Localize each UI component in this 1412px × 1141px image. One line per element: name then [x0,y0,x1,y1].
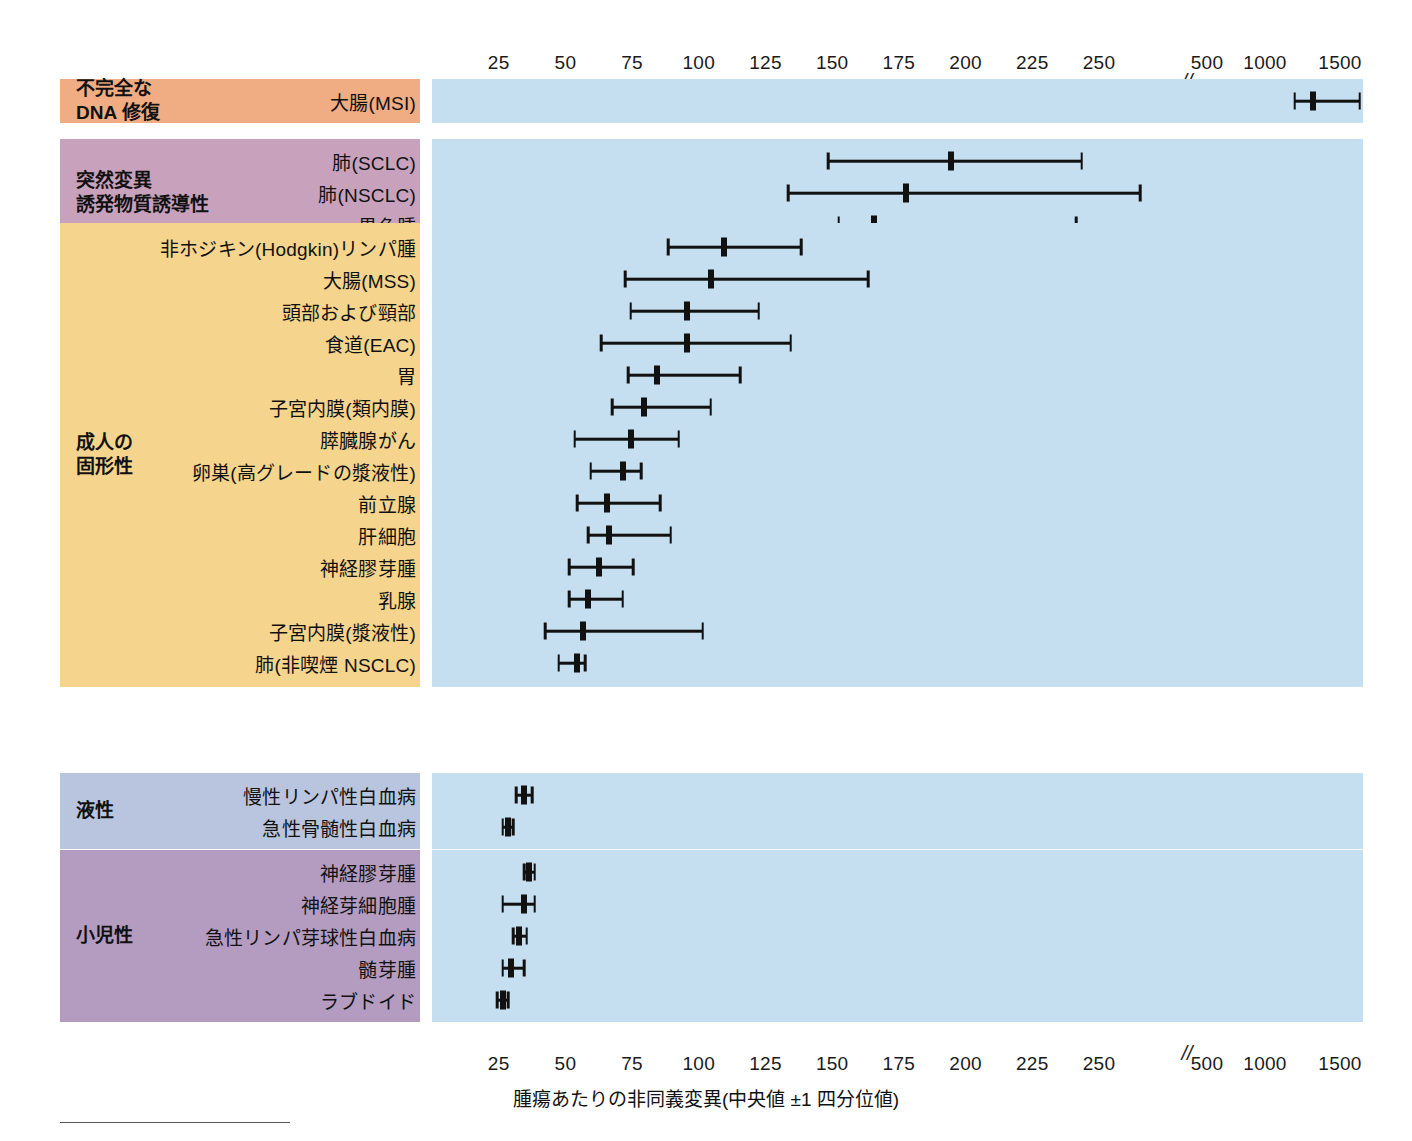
median-marker [641,398,647,417]
row-label: 子宮内膜(類内膜) [269,394,416,421]
row-label: 乳腺 [378,586,416,613]
error-bar-cap-low [501,960,504,977]
table-row: 非ホジキン(Hodgkin)リンパ腫 [60,231,1363,263]
error-bar-line [575,438,679,441]
axis-bottom-tick-150: 150 [816,1053,849,1075]
error-bar-cap-high [533,864,536,881]
row-label: 前立腺 [358,490,416,517]
axis-bottom-tick-100: 100 [682,1053,715,1075]
error-bar-cap-high [1080,153,1083,170]
error-bar-line [628,374,740,377]
median-marker [684,334,690,353]
median-marker [585,590,591,609]
median-marker [684,302,690,321]
error-bar-cap-low [568,591,571,608]
error-bar-cap-low [523,864,526,881]
error-bar-cap-low [544,623,547,640]
table-row: 食道(EAC) [60,327,1363,359]
median-marker [500,991,506,1010]
axis-top-tick-250: 250 [1083,52,1116,74]
error-bar-cap-low [787,185,790,202]
median-marker [903,184,909,203]
error-bar-line [588,534,671,537]
median-marker [574,654,580,673]
error-bar-cap-low [667,239,670,256]
row-label: 髄芽腫 [358,955,416,982]
row-label: 肺(SCLC) [332,148,416,175]
row-label: 急性骨髄性白血病 [262,814,416,841]
error-bar-cap-high [701,623,704,640]
axis-bottom-tick-225: 225 [1016,1053,1049,1075]
error-bar-line [1295,100,1360,103]
table-row: ラブドイド [60,984,1363,1016]
axis-top-tick-500: 500 [1191,52,1224,74]
mutation-burden-chart: 2550751001251501752002252505001000150025… [0,0,1412,1141]
error-bar-cap-high [677,431,680,448]
error-bar-cap-low [827,153,830,170]
axis-top-tick-1000: 1000 [1243,52,1286,74]
error-bar-cap-high [584,655,587,672]
error-bar-cap-low [627,367,630,384]
error-bar-cap-high [1358,93,1361,110]
median-marker [620,462,626,481]
error-bar-line [668,246,801,249]
row-label: 食道(EAC) [325,330,416,357]
table-row: 大腸(MSI) [60,85,1363,117]
table-row: 頭部および頸部 [60,295,1363,327]
error-bar-line [569,598,622,601]
chart-section-4: 小児性神経膠芽腫神経芽細胞腫急性リンパ芽球性白血病髄芽腫ラブドイド [60,850,1363,1022]
median-marker [508,959,514,978]
median-marker [521,786,527,805]
axis-bottom-tick-125: 125 [749,1053,782,1075]
table-row: 子宮内膜(漿液性) [60,615,1363,647]
axis-bottom-tick-200: 200 [949,1053,982,1075]
axis-top-tick-150: 150 [816,52,849,74]
error-bar-cap-low [629,303,632,320]
error-bar-cap-low [496,992,499,1009]
error-bar-cap-high [533,896,536,913]
error-bar-cap-high [1139,185,1142,202]
error-bar-line [612,406,711,409]
row-label: 卵巣(高グレードの漿液性) [192,458,416,485]
error-bar-cap-low [624,271,627,288]
table-row: 肺(NSCLC) [60,177,1363,209]
error-bar-cap-high [669,527,672,544]
table-row: 髄芽腫 [60,952,1363,984]
table-row: 大腸(MSS) [60,263,1363,295]
row-label: 膵臓腺がん [320,426,416,453]
chart-section-2: 成人の 固形性非ホジキン(Hodgkin)リンパ腫大腸(MSS)頭部および頸部食… [60,223,1363,687]
axis-bottom-tick-1000: 1000 [1243,1053,1286,1075]
error-bar-cap-low [501,896,504,913]
error-bar-line [788,192,1140,195]
median-marker [606,526,612,545]
axis-break-mark: // [1181,1042,1192,1065]
median-marker [516,927,522,946]
median-marker [628,430,634,449]
chart-section-0: 不完全な DNA 修復大腸(MSI) [60,79,1363,123]
axis-top-tick-25: 25 [488,52,510,74]
error-bar-cap-low [515,787,518,804]
row-label: ラブドイド [320,987,416,1014]
chart-section-3: 液性慢性リンパ性白血病急性骨髄性白血病 [60,773,1363,849]
error-bar-line [591,470,642,473]
table-row: 子宮内膜(類内膜) [60,391,1363,423]
row-label: 神経膠芽腫 [320,859,416,886]
error-bar-cap-low [573,431,576,448]
error-bar-cap-high [709,399,712,416]
error-bar-line [625,278,868,281]
axis-bottom-tick-75: 75 [621,1053,643,1075]
row-label: 頭部および頸部 [282,298,416,325]
axis-bottom-tick-175: 175 [883,1053,916,1075]
table-row: 神経膠芽腫 [60,551,1363,583]
table-row: 乳腺 [60,583,1363,615]
axis-bottom-tick-50: 50 [555,1053,577,1075]
row-label: 神経膠芽腫 [320,554,416,581]
table-row: 胃 [60,359,1363,391]
table-row: 肺(非喫煙 NSCLC) [60,647,1363,679]
error-bar-cap-low [557,655,560,672]
error-bar-cap-high [790,335,793,352]
error-bar-line [601,342,790,345]
median-marker [505,818,511,837]
axis-top-tick-200: 200 [949,52,982,74]
error-bar-cap-high [739,367,742,384]
